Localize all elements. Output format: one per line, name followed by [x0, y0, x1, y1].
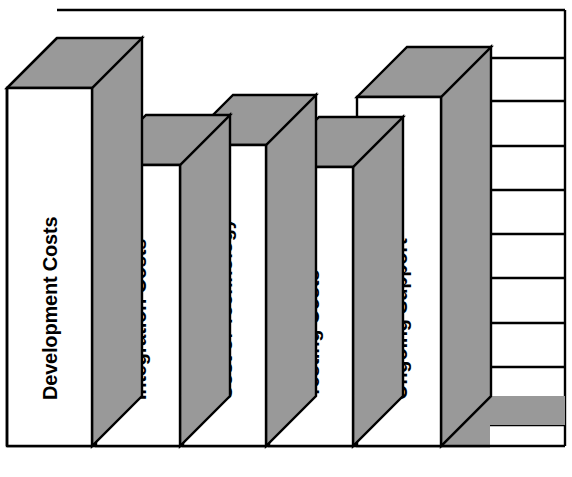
bar-side-face [92, 38, 142, 446]
three-d-column-chart: Ongoing Support Testing Costs Cost of Te… [0, 0, 572, 477]
bar-side-face [266, 95, 316, 446]
bar-side-face [441, 47, 491, 446]
bar-side-face [353, 117, 403, 446]
bar-side-face [180, 115, 230, 446]
chart-container: Ongoing Support Testing Costs Cost of Te… [0, 0, 572, 477]
bar-development-costs[interactable]: Development Costs [7, 38, 142, 446]
bar-label-development-costs: Development Costs [39, 217, 61, 400]
